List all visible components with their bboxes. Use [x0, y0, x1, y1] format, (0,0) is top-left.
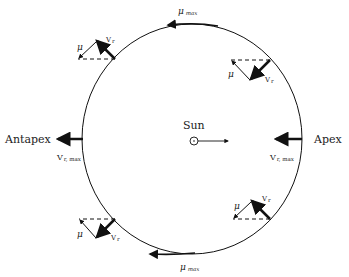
bottom-mu-max-arrow	[150, 253, 195, 254]
bottom-right-mu-label: μ	[234, 201, 240, 211]
antapex-label: Antapex	[4, 133, 52, 146]
top-right-mu-label: μ	[228, 69, 234, 79]
bottom-left-mu-label: μ	[77, 229, 83, 239]
sun-center-dot	[193, 140, 195, 142]
apex-vr-max-label: Vr, max	[269, 153, 295, 162]
bottom-left-vector-triangle	[79, 219, 115, 238]
sun-label: Sun	[183, 119, 205, 132]
bottom-left-vr-label: Vr	[110, 234, 120, 242]
top-left-mu-label: μ	[77, 42, 83, 52]
bottom-right-vr-label: Vr	[261, 195, 271, 203]
apex-label: Apex	[313, 133, 342, 146]
top-mu-max-label: μmax	[178, 6, 198, 16]
bottom-mu-max-label: μmax	[180, 262, 200, 272]
solar-motion-diagram: μmax μmax Antapex Vr, max Apex Vr, max S…	[0, 0, 349, 277]
antapex-vr-max-label: Vr, max	[56, 153, 82, 162]
top-left-vr-label: Vr	[105, 36, 115, 44]
top-right-vr-label: Vr	[264, 76, 274, 84]
